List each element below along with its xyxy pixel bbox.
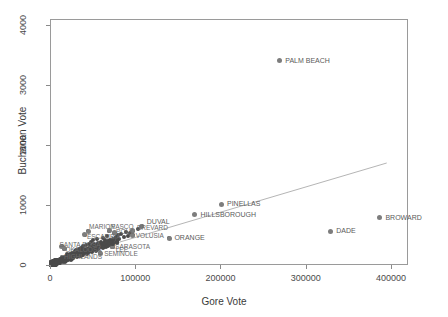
x-axis-tick-label: 400000 [376,273,406,283]
scatter-chart-figure: PALM BEACHPINELLASHILLSBOROUGHBROWARDDAD… [0,0,448,317]
y-axis-tick-label: 0 [17,248,29,282]
x-axis-tick-label: 0 [47,273,52,283]
x-axis-tick [50,265,51,269]
x-axis-tick [306,265,307,269]
x-axis-title: Gore Vote [0,296,448,307]
x-axis-tick-label: 100000 [120,273,150,283]
plot-area-frame [50,19,408,265]
y-axis-title: Buchanan Vote [17,81,28,201]
x-axis-tick [391,265,392,269]
x-axis-tick [135,265,136,269]
y-axis-tick-label: 4000 [17,8,29,42]
x-axis-tick-label: 300000 [291,273,321,283]
y-axis-tick [46,265,50,266]
x-axis-tick-label: 200000 [205,273,235,283]
x-axis-tick [220,265,221,269]
